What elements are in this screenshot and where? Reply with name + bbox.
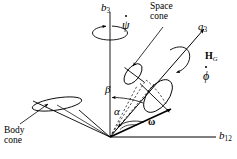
body-cone-lower-edge [79,110,110,137]
body-cone-axis-line [57,105,110,137]
label-a3-axis: a3 [198,21,207,34]
label-phi-glyph: ϕ [203,69,209,83]
label-space-cone-line2: cone [150,12,173,22]
label-b12-subscript: 12 [225,135,232,143]
space-cone-leader-line [133,27,163,66]
label-body-cone-line2: cone [4,136,25,146]
space-cone-edge-upper [125,68,145,83]
label-spin-rate: ϕ [203,70,209,83]
label-hg-base: H [205,50,213,61]
psi-dot-mark [125,15,127,17]
rotation-cones-figure: b3 ψ Space cone a3 HG ϕ β α ω b12 Body c… [0,0,237,159]
label-precession-rate: ψ [122,19,129,32]
precession-arrow [93,26,111,40]
label-b3-subscript: 3 [107,7,111,15]
label-hg-subscript: G [213,55,218,62]
label-space-cone: Space cone [150,2,173,22]
body-cone-leader-line [20,104,48,124]
space-cone-base-ellipse [138,75,178,118]
label-body-cone: Body cone [4,126,25,146]
label-omega-glyph: ω [148,116,155,127]
body-cone [31,94,110,137]
label-b3-axis: b3 [101,2,110,15]
label-b12-axis: b12 [219,130,232,143]
label-nutation-angle: β [105,84,110,96]
label-psi-glyph: ψ [122,18,129,32]
label-angular-momentum: HG [205,51,218,63]
beta-angle-arc [112,98,143,104]
phi-dot-mark [205,66,207,68]
label-cone-half-angle: α [114,106,120,118]
label-a3-subscript: 3 [204,26,208,34]
label-angular-velocity: ω [148,117,155,128]
spin-arrow [170,47,190,73]
